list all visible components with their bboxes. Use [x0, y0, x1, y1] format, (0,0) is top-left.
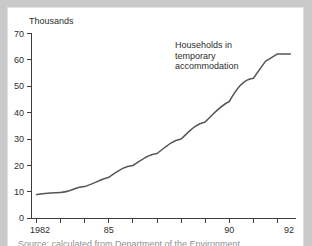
y-axis-ticks	[27, 34, 32, 219]
line-chart: 70 60 50 40 30 20 10 0 1982 85	[0, 0, 312, 246]
annotation-line-2: temporary	[175, 51, 239, 62]
figure-root: Thousands 70 60 50 40 30 20 10 0	[0, 0, 312, 246]
series-annotation: Households in temporary accommodation	[175, 40, 239, 72]
annotation-line-3: accommodation	[175, 61, 239, 72]
x-axis-ticks	[37, 219, 278, 224]
y-tick-label: 20	[14, 161, 24, 171]
x-tick-label-85: 85	[104, 225, 114, 235]
y-tick-label: 40	[14, 108, 24, 118]
y-tick-label: 10	[14, 187, 24, 197]
x-tick-label-92: 92	[284, 225, 294, 235]
x-tick-label-1982: 1982	[30, 225, 50, 235]
y-tick-label: 70	[14, 29, 24, 39]
y-tick-label: 0	[19, 213, 24, 223]
y-tick-label: 30	[14, 134, 24, 144]
y-tick-label: 50	[14, 81, 24, 91]
x-axis-tick-labels: 1982 85 90 92	[30, 225, 294, 235]
data-series-line	[37, 54, 291, 195]
y-axis-tick-labels: 70 60 50 40 30 20 10 0	[14, 29, 24, 224]
y-tick-label: 60	[14, 55, 24, 65]
x-tick-label-90: 90	[224, 225, 234, 235]
annotation-line-1: Households in	[175, 40, 239, 51]
source-caption: Source: calculated from Department of th…	[18, 239, 240, 246]
